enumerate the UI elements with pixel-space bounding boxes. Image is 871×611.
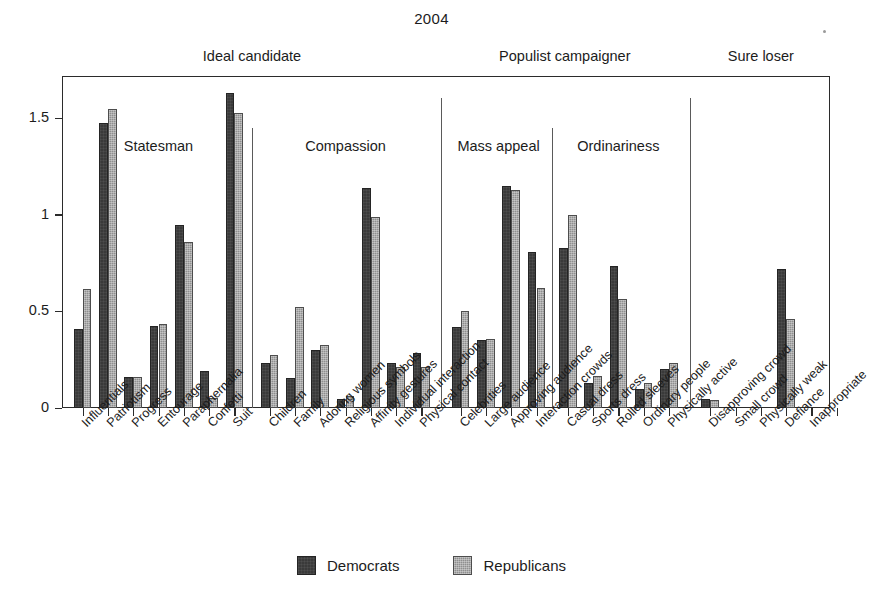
subgroup-label-statesman: Statesman [79, 138, 239, 154]
stray-speck [823, 30, 826, 33]
bar-republicans-7 [270, 355, 279, 408]
supergroup-label-ideal-candidate: Ideal candidate [142, 48, 362, 64]
legend-entry-republicans: Republicans [453, 556, 566, 575]
bar-democrats-7 [261, 363, 270, 408]
y-tick-mark-0 [55, 408, 62, 409]
supergroup-label-populist-campaigner: Populist campaigner [455, 48, 675, 64]
bar-democrats-1 [99, 123, 108, 408]
bar-democrats-16 [502, 186, 511, 408]
bar-republicans-0 [83, 289, 92, 408]
y-tick-label-0: 0 [0, 399, 49, 415]
y-tick-mark-3 [55, 118, 62, 119]
supergroup-label-sure-loser: Sure loser [651, 48, 871, 64]
legend-entry-democrats: Democrats [297, 556, 400, 575]
legend-label-republicans: Republicans [483, 557, 566, 574]
y-tick-label-2: 1 [0, 206, 49, 222]
bar-republicans-6 [234, 113, 243, 408]
y-tick-label-3: 1.5 [0, 109, 49, 125]
chart-legend: DemocratsRepublicans [0, 556, 863, 575]
subgroup-separator-0 [252, 128, 253, 408]
bar-republicans-16 [511, 190, 520, 408]
subgroup-label-ordinariness: Ordinariness [538, 138, 698, 154]
y-tick-label-1: 0.5 [0, 302, 49, 318]
bar-democrats-0 [74, 329, 83, 408]
plot-area: StatesmanCompassionMass appealOrdinarine… [62, 76, 830, 408]
y-tick-mark-2 [55, 214, 62, 215]
legend-swatch-democrats [297, 556, 316, 575]
subgroup-separator-2 [552, 128, 553, 408]
legend-label-democrats: Democrats [327, 557, 400, 574]
bar-democrats-4 [175, 225, 184, 408]
chart-title: 2004 [0, 10, 863, 27]
subgroup-label-compassion: Compassion [266, 138, 426, 154]
legend-swatch-republicans [453, 556, 472, 575]
y-tick-mark-1 [55, 311, 62, 312]
